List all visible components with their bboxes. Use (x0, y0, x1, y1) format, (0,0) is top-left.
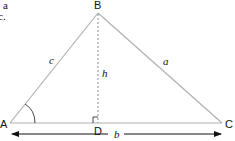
right-angle-marker (93, 117, 98, 123)
vertex-label-a: A (0, 118, 8, 130)
base-label-b: b (114, 128, 120, 140)
side-label-a: a (163, 55, 169, 67)
vertex-label-c: C (225, 118, 233, 130)
side-c-line (10, 13, 98, 123)
fragment-text-2: c. (0, 10, 6, 22)
side-a-line (98, 13, 222, 123)
height-label-h: h (102, 67, 108, 79)
vertex-label-b: B (94, 0, 101, 11)
vertex-label-d: D (94, 125, 102, 137)
angle-a-arc (25, 104, 35, 123)
side-label-c: c (49, 54, 54, 66)
triangle-diagram: a c. B A C D c a h b (0, 0, 235, 141)
